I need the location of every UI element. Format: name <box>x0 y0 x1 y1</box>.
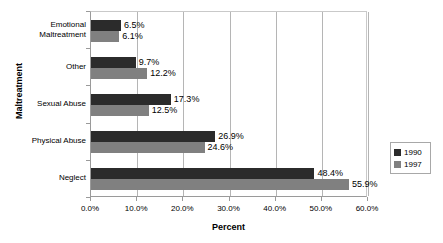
x-tick-label: 0.0% <box>67 204 113 213</box>
bar-1997-neglect <box>91 179 349 190</box>
bar-1990-sexual-abuse <box>91 94 171 105</box>
bar-value-label: 26.9% <box>215 131 244 142</box>
x-tickmark <box>275 197 276 201</box>
x-tick-label: 10.0% <box>113 204 159 213</box>
x-tickmark <box>90 197 91 201</box>
x-tick-label: 40.0% <box>252 204 298 213</box>
y-tick-label: Sexual Abuse <box>2 99 86 109</box>
bar-1997-physical-abuse <box>91 142 205 153</box>
bar-value-label: 6.5% <box>121 20 145 31</box>
y-tickmark <box>86 11 90 12</box>
x-tick-label: 50.0% <box>298 204 344 213</box>
y-tick-label: Neglect <box>2 173 86 183</box>
legend-item-1990: 1990 <box>394 146 428 158</box>
x-tickmark <box>229 197 230 201</box>
y-tick-label: Physical Abuse <box>2 136 86 146</box>
bar-value-label: 24.6% <box>205 142 234 153</box>
x-tickmark <box>321 197 322 201</box>
y-tickmark <box>86 48 90 49</box>
bar-value-label: 12.5% <box>149 105 178 116</box>
bar-1997-emotional-maltreatment <box>91 31 119 42</box>
legend-swatch-icon <box>394 161 401 168</box>
bar-value-label: 55.9% <box>349 179 378 190</box>
bar-1990-emotional-maltreatment <box>91 20 121 31</box>
y-tickmark <box>86 85 90 86</box>
x-tickmark <box>367 197 368 201</box>
y-axis-title: Maltreatment <box>14 36 24 146</box>
bar-value-label: 6.1% <box>119 31 143 42</box>
legend-swatch-icon <box>394 149 401 156</box>
bar-value-label: 48.4% <box>314 168 343 179</box>
bar-1990-neglect <box>91 168 314 179</box>
y-tickmark <box>86 123 90 124</box>
x-axis-title: Percent <box>90 222 367 232</box>
x-tick-label: 20.0% <box>159 204 205 213</box>
y-tick-label: Other <box>2 62 86 72</box>
x-tickmark <box>136 197 137 201</box>
bar-1997-other <box>91 68 147 79</box>
y-tickmark <box>86 160 90 161</box>
gridline-60.0% <box>368 12 369 196</box>
x-tick-label: 60.0% <box>344 204 390 213</box>
bar-value-label: 17.3% <box>171 94 200 105</box>
chart-legend: 19901997 <box>390 142 431 174</box>
legend-label: 1997 <box>404 160 422 169</box>
plot-area: 48.4%55.9%26.9%24.6%17.3%12.5%9.7%12.2%6… <box>90 11 367 197</box>
legend-item-1997: 1997 <box>394 158 428 170</box>
bar-value-label: 9.7% <box>136 57 160 68</box>
x-tick-label: 30.0% <box>206 204 252 213</box>
bar-1990-other <box>91 57 136 68</box>
y-tick-label: EmotionalMaltreatment <box>2 20 86 40</box>
legend-label: 1990 <box>404 148 422 157</box>
bar-1990-physical-abuse <box>91 131 215 142</box>
x-tickmark <box>182 197 183 201</box>
bar-1997-sexual-abuse <box>91 105 149 116</box>
bar-chart: Maltreatment 48.4%55.9%26.9%24.6%17.3%12… <box>0 0 443 243</box>
bar-value-label: 12.2% <box>147 68 176 79</box>
